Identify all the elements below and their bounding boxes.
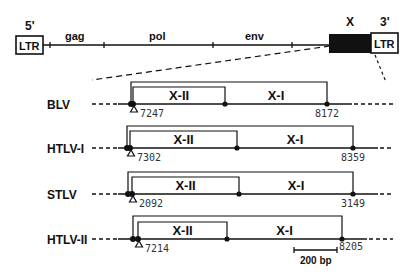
- virus-label: STLV: [47, 188, 77, 202]
- splice-site-dot: [350, 145, 355, 150]
- gene-label-pol: pol: [149, 30, 166, 42]
- orf-x2-label: X-II: [175, 178, 195, 193]
- x-region-label: X: [346, 15, 354, 29]
- virus-label: BLV: [47, 98, 70, 112]
- virus-row: STLVX-IIX-I20923149: [47, 172, 393, 209]
- virus-label: HTLV-I: [47, 142, 84, 156]
- position-end: 3149: [341, 198, 365, 209]
- splice-site-dot: [350, 191, 355, 196]
- virus-rows: BLVX-IIX-I72478172HTLV-IX-IIX-I73028359S…: [47, 82, 393, 254]
- proviral-genome-map: 5' LTR gag pol env X 3' LTR: [16, 15, 398, 54]
- splice-site-dot: [224, 236, 229, 241]
- splice-site-dot: [222, 101, 227, 106]
- splice-site-dot: [130, 101, 136, 107]
- scale-bar-label: 200 bp: [300, 255, 332, 266]
- position-start: 7214: [145, 243, 169, 254]
- virus-row: HTLV-IIX-IIX-I72148205: [47, 216, 393, 254]
- orf-x1-bracket: [128, 172, 353, 194]
- x-region-block: [329, 34, 371, 53]
- splice-site-dot: [236, 191, 241, 196]
- gene-label-env: env: [245, 30, 265, 42]
- splice-site-dot: [127, 145, 133, 151]
- ltr5-label: LTR: [19, 40, 40, 52]
- orf-x1-label: X-I: [276, 223, 293, 238]
- orf-x1-bracket: [127, 126, 353, 148]
- splice-site-dot: [234, 145, 239, 150]
- splice-acceptor-triangle-icon: [130, 196, 137, 202]
- ltr3-label: LTR: [374, 38, 395, 50]
- orf-x1-label: X-I: [288, 178, 305, 193]
- splice-site-dot: [129, 191, 135, 197]
- orf-x2-label: X-II: [169, 88, 189, 103]
- position-end: 8359: [341, 152, 365, 163]
- position-end: 8172: [315, 108, 339, 119]
- orf-x2-label: X-II: [172, 223, 192, 238]
- orf-x1-bracket: [133, 216, 342, 239]
- splice-acceptor-triangle-icon: [136, 241, 143, 247]
- orf-x2-label: X-II: [173, 132, 193, 147]
- ltr3-prime-label: 3': [380, 15, 390, 29]
- position-start: 7302: [137, 152, 161, 163]
- splice-site-dot: [135, 236, 141, 242]
- orf-x1-bracket: [131, 82, 327, 104]
- position-end: 8205: [339, 241, 363, 252]
- orf-x1-label: X-I: [287, 132, 304, 147]
- splice-acceptor-triangle-icon: [128, 150, 135, 156]
- gene-label-gag: gag: [65, 30, 85, 42]
- virus-row: BLVX-IIX-I72478172: [47, 82, 393, 119]
- orf-x1-label: X-I: [268, 88, 285, 103]
- virus-row: HTLV-IX-IIX-I73028359: [47, 126, 393, 163]
- ltr5-prime-label: 5': [25, 19, 35, 33]
- position-start: 7247: [140, 108, 164, 119]
- virus-label: HTLV-II: [47, 233, 87, 247]
- position-start: 2092: [139, 198, 163, 209]
- scale-bar: 200 bp: [294, 247, 337, 266]
- splice-site-dot: [324, 101, 329, 106]
- htlv-x-region-diagram: 5' LTR gag pol env X 3' LTR BLVX-IIX-I72…: [0, 0, 413, 280]
